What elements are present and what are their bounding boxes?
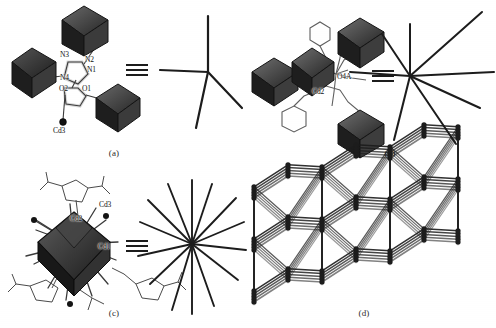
node-diagram-c bbox=[138, 180, 246, 314]
equivalence-bar bbox=[126, 64, 148, 66]
atom-label-n4: N4 bbox=[60, 73, 69, 82]
equivalence-bar bbox=[126, 245, 148, 247]
polyhedron-far-left bbox=[252, 58, 298, 106]
polyhedron-right bbox=[96, 84, 140, 132]
atom-label-n1: N1 bbox=[87, 65, 96, 74]
atom-label-o4a: O4A bbox=[337, 72, 351, 81]
atom-marker bbox=[67, 301, 73, 307]
equivalence-symbol-b bbox=[372, 70, 394, 83]
polyhedron-top-right bbox=[338, 18, 384, 68]
panel-d: (d) bbox=[248, 164, 496, 328]
polyhedron-left bbox=[12, 48, 56, 98]
panel-a-graphic bbox=[0, 0, 248, 164]
atom-label-n2: N2 bbox=[85, 55, 94, 64]
panel-caption-c: (c) bbox=[0, 308, 238, 318]
equivalence-bar bbox=[126, 74, 148, 76]
node-diagram-a bbox=[160, 16, 242, 128]
atom-cd3-marker bbox=[60, 119, 67, 126]
panel-c: Cd3 Cd2 Cd1 (c) bbox=[0, 164, 248, 328]
panel-c-graphic bbox=[0, 164, 248, 328]
atom-label-cd3: Cd3 bbox=[53, 126, 65, 135]
atom-marker bbox=[103, 213, 109, 219]
equivalence-symbol-c bbox=[126, 240, 148, 253]
polyhedron-top bbox=[62, 6, 108, 56]
atom-label-cd2: Cd2 bbox=[70, 214, 82, 223]
panel-caption-d: (d) bbox=[240, 308, 488, 318]
atom-label-cd3: Cd3 bbox=[99, 200, 111, 209]
atom-label-cd1: Cd1 bbox=[98, 242, 110, 251]
panel-caption-a: (a) bbox=[0, 148, 238, 158]
figure-canvas: N3 N2 N1 N4 O2 O1 Cd3 (a) bbox=[0, 0, 496, 328]
equivalence-bar bbox=[126, 69, 148, 71]
equivalence-bar bbox=[126, 250, 148, 252]
equivalence-bar bbox=[372, 75, 394, 77]
atom-label-o2: O2 bbox=[59, 84, 68, 93]
atom-marker bbox=[31, 217, 37, 223]
atom-label-n3: N3 bbox=[60, 50, 69, 59]
panel-d-graphic bbox=[248, 164, 496, 328]
equivalence-bar bbox=[372, 80, 394, 82]
atom-label-cd2: Cd2 bbox=[312, 87, 324, 96]
panel-a: N3 N2 N1 N4 O2 O1 Cd3 (a) bbox=[0, 0, 248, 164]
atom-label-o1: O1 bbox=[82, 84, 91, 93]
equivalence-bar bbox=[372, 70, 394, 72]
equivalence-bar bbox=[126, 240, 148, 242]
equivalence-symbol-a bbox=[126, 64, 148, 77]
